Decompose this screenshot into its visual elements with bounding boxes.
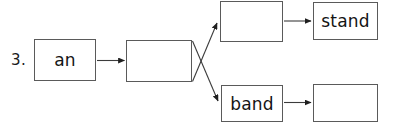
arrow-root-to-band xyxy=(193,41,219,101)
word-box-intermediate[interactable] xyxy=(126,40,192,82)
word-building-diagram: 3. an stand band xyxy=(0,0,395,130)
item-number-label: 3. xyxy=(11,51,26,69)
word-box-base[interactable]: an xyxy=(34,39,96,81)
word-box-branch-bottom[interactable] xyxy=(313,84,378,122)
arrow-root-to-top1 xyxy=(193,23,218,82)
word-box-branch-top-word[interactable]: stand xyxy=(313,2,378,40)
word-box-branch-bottom-word[interactable]: band xyxy=(221,85,283,122)
word-box-branch-top[interactable] xyxy=(220,1,283,42)
